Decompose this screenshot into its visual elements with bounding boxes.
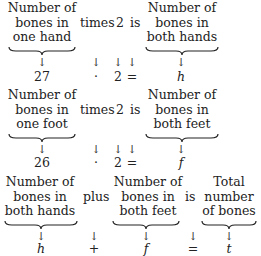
phrase-line: both hands [144, 30, 220, 45]
down-arrow-icon: ↓ [127, 57, 136, 68]
variable-f: f [144, 242, 149, 256]
underbrace-icon [8, 133, 76, 143]
phrase-line: both feet [144, 117, 220, 132]
phrase-line: bones in [144, 16, 220, 31]
down-arrow-icon: ↓ [176, 57, 185, 68]
phrase-line: Number of [110, 175, 186, 190]
phrase-bones-one-foot: Number of bones in one foot [6, 88, 78, 132]
down-arrow-icon: ↓ [113, 57, 122, 68]
phrase-bones-one-hand: Number of bones in one hand [6, 1, 78, 45]
phrase-line: bones in [6, 16, 78, 31]
word-times: times [80, 103, 115, 117]
operator-dot: · [94, 156, 98, 170]
underbrace-icon [145, 133, 219, 143]
down-arrow-icon: ↓ [37, 57, 46, 68]
phrase-line: of bones [200, 204, 258, 219]
down-arrow-icon: ↓ [91, 57, 100, 68]
phrase-line: both hands [2, 204, 78, 219]
phrase-line: one foot [6, 117, 78, 132]
value-2: 2 [114, 156, 122, 170]
phrase-bones-both-feet: Number of bones in both feet [110, 175, 186, 219]
operator-equals: = [127, 156, 137, 170]
variable-f: f [179, 156, 184, 170]
word-times: times [80, 16, 115, 30]
value-27: 27 [34, 70, 50, 84]
phrase-line: bones in [6, 103, 78, 118]
phrase-total-bones: Total number of bones [200, 175, 258, 219]
word-is: is [185, 190, 195, 204]
phrase-line: bones in [144, 103, 220, 118]
word-is: is [130, 16, 140, 30]
word-plus: plus [83, 190, 109, 204]
down-arrow-icon: ↓ [37, 144, 46, 155]
phrase-line: bones in [2, 190, 78, 205]
phrase-line: Number of [144, 1, 220, 16]
word-factor: 2 [116, 103, 124, 117]
underbrace-icon [8, 46, 76, 56]
word-factor: 2 [116, 16, 124, 30]
down-arrow-icon: ↓ [127, 144, 136, 155]
variable-h: h [37, 242, 45, 256]
phrase-line: Number of [144, 88, 220, 103]
down-arrow-icon: ↓ [91, 144, 100, 155]
phrase-bones-both-hands: Number of bones in both hands [2, 175, 78, 219]
operator-equals: = [127, 70, 137, 84]
value-2: 2 [114, 70, 122, 84]
underbrace-icon [145, 46, 219, 56]
underbrace-icon [4, 220, 78, 230]
operator-equals: = [188, 242, 198, 256]
phrase-line: both feet [110, 204, 186, 219]
underbrace-icon [201, 220, 257, 230]
phrase-line: Number of [2, 175, 78, 190]
operator-dot: · [94, 70, 98, 84]
phrase-line: Total [200, 175, 258, 190]
phrase-line: bones in [110, 190, 186, 205]
variable-h: h [177, 70, 185, 84]
phrase-bones-both-feet: Number of bones in both feet [144, 88, 220, 132]
phrase-line: Number of [6, 1, 78, 16]
variable-t: t [226, 242, 231, 256]
value-26: 26 [34, 156, 50, 170]
word-is: is [130, 103, 140, 117]
operator-plus: + [89, 242, 99, 256]
down-arrow-icon: ↓ [113, 144, 122, 155]
phrase-line: one hand [6, 30, 78, 45]
down-arrow-icon: ↓ [176, 144, 185, 155]
phrase-line: number [200, 190, 258, 205]
phrase-line: Number of [6, 88, 78, 103]
underbrace-icon [112, 220, 180, 230]
phrase-bones-both-hands: Number of bones in both hands [144, 1, 220, 45]
